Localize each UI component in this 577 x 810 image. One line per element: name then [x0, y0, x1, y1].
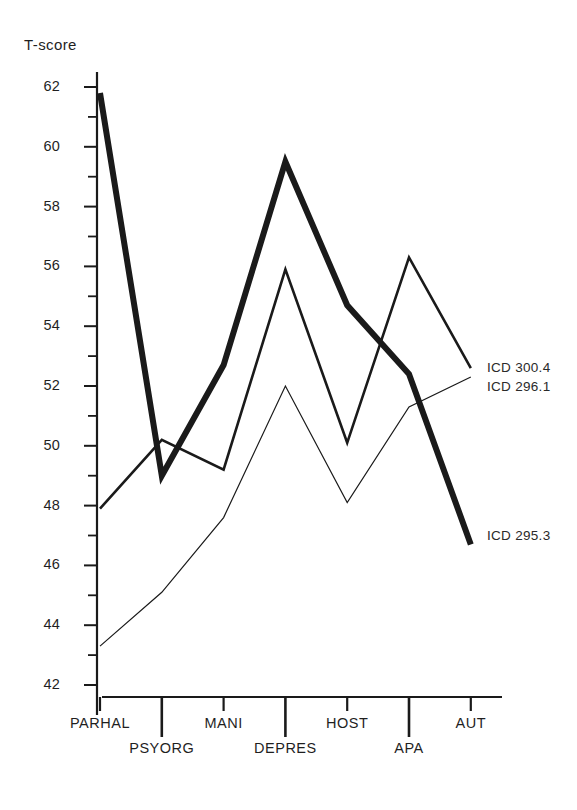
y-tick-label-42: 42	[26, 676, 60, 692]
y-axis-ticks	[84, 87, 97, 685]
x-tick-label-host: HOST	[326, 715, 368, 731]
x-tick-label-apa: APA	[394, 740, 423, 756]
x-tick-label-depres: DEPRES	[254, 740, 317, 756]
y-tick-label-58: 58	[26, 198, 60, 214]
y-tick-label-52: 52	[26, 377, 60, 393]
y-tick-label-60: 60	[26, 138, 60, 154]
x-tick-label-parhal: PARHAL	[70, 715, 130, 731]
x-tick-label-psyorg: PSYORG	[129, 740, 194, 756]
chart-plot-area	[0, 0, 577, 810]
series-line-icd-300-4	[100, 377, 471, 646]
y-tick-label-44: 44	[26, 616, 60, 632]
y-tick-label-46: 46	[26, 556, 60, 572]
series-line-icd-295-3	[100, 93, 471, 544]
x-axis-ticks	[100, 697, 471, 737]
y-tick-label-54: 54	[26, 317, 60, 333]
x-tick-label-mani: MANI	[204, 715, 242, 731]
chart-container: T-score 4244464850525456586062 PARHALPSY…	[0, 0, 577, 810]
series-label-icd-295-3: ICD 295.3	[487, 528, 550, 543]
series-label-icd-296-1: ICD 296.1	[487, 379, 550, 394]
y-tick-label-48: 48	[26, 497, 60, 513]
y-tick-label-62: 62	[26, 78, 60, 94]
y-tick-label-50: 50	[26, 437, 60, 453]
x-tick-label-aut: AUT	[456, 715, 487, 731]
series-label-icd-300-4: ICD 300.4	[487, 360, 550, 375]
y-tick-label-56: 56	[26, 257, 60, 273]
axis-lines	[97, 72, 502, 715]
